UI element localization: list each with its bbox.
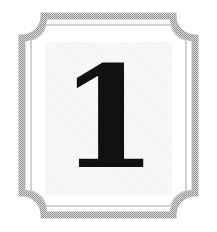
numeral-text: 1 bbox=[0, 0, 217, 232]
